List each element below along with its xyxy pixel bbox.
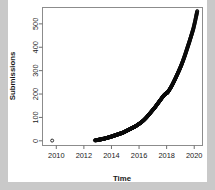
x-tick-label: 2020 bbox=[186, 151, 202, 160]
x-tick-label: 2014 bbox=[103, 151, 119, 160]
x-axis-title: Time bbox=[113, 174, 132, 183]
x-axis-tick-labels: 201020122014201620182020 bbox=[48, 151, 202, 160]
x-axis-ticks bbox=[56, 146, 194, 150]
y-axis-tick-labels: 0100200300400500 bbox=[31, 18, 40, 143]
x-tick-label: 2016 bbox=[131, 151, 147, 160]
x-tick-label: 2012 bbox=[76, 151, 92, 160]
y-tick-label: 200 bbox=[31, 88, 40, 100]
y-tick-label: 0 bbox=[31, 139, 40, 143]
chart-screenshot: 0100200300400500 20102012201420162018202… bbox=[0, 0, 215, 190]
y-tick-label: 100 bbox=[31, 111, 40, 123]
y-axis-title: Submissions bbox=[8, 51, 17, 100]
data-point bbox=[51, 139, 54, 142]
y-tick-label: 400 bbox=[31, 41, 40, 53]
y-tick-label: 500 bbox=[31, 18, 40, 30]
x-tick-label: 2010 bbox=[48, 151, 64, 160]
plot-frame bbox=[43, 8, 203, 146]
data-series-submissions bbox=[51, 10, 199, 143]
y-tick-label: 300 bbox=[31, 64, 40, 76]
x-tick-label: 2018 bbox=[158, 151, 174, 160]
chart-svg: 0100200300400500 20102012201420162018202… bbox=[0, 0, 215, 190]
